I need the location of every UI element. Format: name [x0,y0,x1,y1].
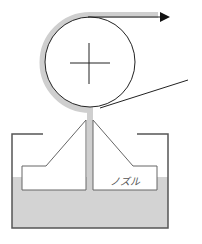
nozzle-channel [87,108,92,190]
nozzle-label: ノズル [110,176,141,187]
roller [45,17,135,107]
coating-diagram: ノズル [0,0,202,244]
arrow-right-icon [160,12,170,22]
nozzle-left-block [22,120,86,190]
